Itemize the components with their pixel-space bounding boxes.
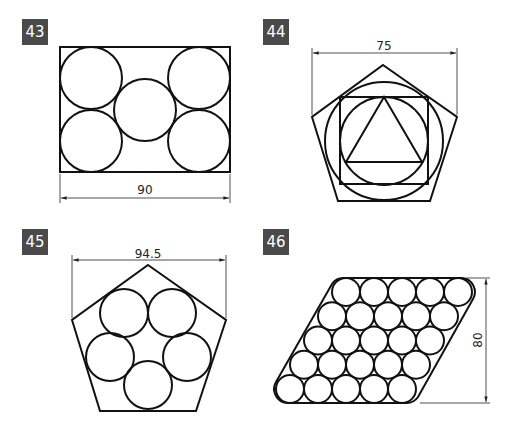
fig46-circle bbox=[388, 375, 416, 403]
figure-44: 75 bbox=[312, 39, 457, 201]
fig46-circle bbox=[346, 351, 374, 379]
figure-45: 94.5 bbox=[72, 247, 226, 411]
fig46-circle bbox=[290, 351, 318, 379]
fig45-dimension-text: 94.5 bbox=[135, 247, 162, 261]
fig45-circle-top-left bbox=[100, 289, 148, 337]
fig46-circle bbox=[304, 375, 332, 403]
fig43-circle-top-right bbox=[168, 47, 230, 109]
fig46-circle bbox=[402, 351, 430, 379]
fig46-circle bbox=[444, 278, 472, 306]
fig43-dimension-text: 90 bbox=[137, 183, 152, 197]
fig46-circle bbox=[332, 278, 360, 306]
fig46-circle bbox=[360, 278, 388, 306]
fig46-dimension-text: 80 bbox=[471, 332, 485, 347]
fig43-circle-bottom-right bbox=[168, 110, 230, 172]
figure-46: 80 bbox=[274, 278, 490, 403]
fig46-circle bbox=[346, 302, 374, 330]
fig45-circle-top-right bbox=[148, 289, 196, 337]
fig45-circle-bottom bbox=[124, 361, 172, 409]
figure-43: 90 bbox=[60, 47, 230, 203]
fig46-circle bbox=[388, 327, 416, 355]
fig43-circle-top-left bbox=[60, 47, 122, 109]
drawing-canvas: 90 75 94.5 80 bbox=[0, 0, 510, 426]
fig44-outer-circle bbox=[325, 82, 443, 200]
fig46-circle bbox=[402, 302, 430, 330]
fig44-inner-circle bbox=[340, 97, 428, 185]
fig46-circle bbox=[416, 327, 444, 355]
fig46-circle bbox=[318, 351, 346, 379]
fig46-circle bbox=[388, 278, 416, 306]
fig44-dimension-text: 75 bbox=[376, 39, 391, 53]
fig46-circle bbox=[318, 302, 346, 330]
fig46-circle bbox=[276, 375, 304, 403]
fig46-circle bbox=[374, 302, 402, 330]
fig46-circle bbox=[430, 302, 458, 330]
fig46-circle bbox=[416, 278, 444, 306]
fig46-circle bbox=[332, 375, 360, 403]
fig43-circle-bottom-left bbox=[60, 110, 122, 172]
fig46-circle bbox=[360, 375, 388, 403]
fig46-circle bbox=[360, 327, 388, 355]
fig46-circle bbox=[332, 327, 360, 355]
fig46-circle bbox=[304, 327, 332, 355]
fig43-circle-center bbox=[114, 79, 176, 141]
fig44-pentagon bbox=[312, 65, 457, 201]
fig46-circle bbox=[374, 351, 402, 379]
